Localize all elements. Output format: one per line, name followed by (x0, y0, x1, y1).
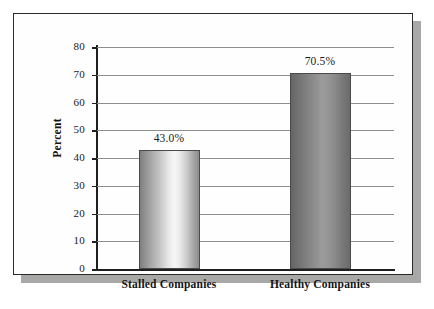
bar-stalled-companies[interactable] (139, 150, 200, 269)
chart-figure-frame: Percent 80706050403020100 43.0%70.5% Sta… (13, 13, 413, 275)
x-axis-category-label: Stalled Companies (99, 278, 239, 290)
y-axis-tick-label: 0 (59, 262, 85, 274)
y-axis-tick-label: 80 (59, 40, 85, 52)
y-axis-tick-label: 40 (59, 151, 85, 163)
y-axis-tick-label: 70 (59, 68, 85, 80)
bar-healthy-companies[interactable] (290, 73, 351, 269)
bar-value-label: 43.0% (129, 132, 209, 144)
x-axis-line (96, 269, 395, 271)
x-axis-category-label: Healthy Companies (250, 278, 390, 290)
bar-value-label: 70.5% (280, 55, 360, 67)
plot-area (97, 47, 394, 269)
y-axis-tick-label: 10 (59, 234, 85, 246)
y-axis-tick-label: 60 (59, 96, 85, 108)
gridline (97, 47, 394, 48)
y-axis-tick-label: 50 (59, 123, 85, 135)
y-axis-tick-label: 30 (59, 179, 85, 191)
y-axis-tick-label: 20 (59, 207, 85, 219)
